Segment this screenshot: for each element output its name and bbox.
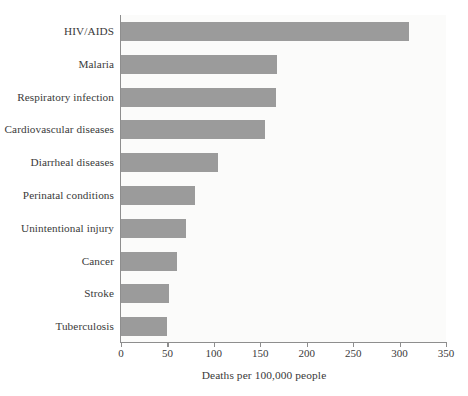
bar	[121, 252, 177, 271]
y-axis-label: Diarrheal diseases	[0, 157, 114, 168]
x-tick-label: 100	[206, 348, 223, 359]
bar	[121, 88, 276, 107]
y-axis-label: HIV/AIDS	[0, 26, 114, 37]
y-axis-label: Respiratory infection	[0, 92, 114, 103]
x-tick-label: 0	[118, 348, 124, 359]
y-axis-label: Malaria	[0, 59, 114, 70]
x-tick-label: 150	[252, 348, 269, 359]
bar	[121, 186, 195, 205]
bar	[121, 219, 186, 238]
bar-series	[121, 15, 446, 342]
y-axis-label: Perinatal conditions	[0, 190, 114, 201]
y-axis-label: Cancer	[0, 256, 114, 267]
bar	[121, 317, 167, 336]
x-tick-label: 200	[298, 348, 315, 359]
x-tick-label: 250	[345, 348, 362, 359]
y-axis-label: Tuberculosis	[0, 321, 114, 332]
y-axis-category-labels: HIV/AIDSMalariaRespiratory infectionCard…	[0, 15, 114, 342]
y-axis-label: Stroke	[0, 288, 114, 299]
y-axis-label: Unintentional injury	[0, 223, 114, 234]
bar	[121, 284, 169, 303]
bar	[121, 22, 409, 41]
bar	[121, 153, 218, 172]
x-axis-title-text: Deaths per 100,000 people	[142, 369, 327, 381]
bar	[121, 120, 265, 139]
y-axis-label: Cardiovascular diseases	[0, 124, 114, 135]
x-tick-label: 300	[391, 348, 408, 359]
bar	[121, 55, 277, 74]
x-axis-title: Deaths per 100,000 people	[0, 369, 468, 381]
x-axis-ticks: 050100150200250300350	[121, 342, 446, 366]
x-tick-label: 50	[162, 348, 173, 359]
bar-chart: HIV/AIDSMalariaRespiratory infectionCard…	[0, 0, 468, 396]
x-tick-label: 350	[438, 348, 455, 359]
